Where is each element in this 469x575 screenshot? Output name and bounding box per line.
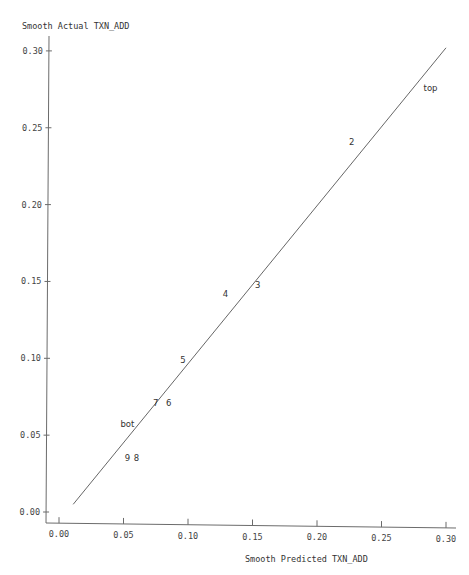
point-label-top: top [424, 83, 438, 93]
x-axis-line [46, 523, 456, 528]
y-tick-label: 0.25 [22, 123, 42, 133]
x-tick-label: 0.10 [178, 531, 198, 541]
y-tick-label: 0.00 [20, 507, 40, 517]
point-label-9: 9 [125, 453, 130, 463]
y-axis-line [46, 36, 49, 523]
x-tick-label: 0.05 [113, 530, 133, 540]
point-label-8: 8 [134, 453, 139, 463]
y-tick-label: 0.20 [21, 200, 41, 210]
point-label-2: 2 [349, 137, 354, 147]
y-tick-label: 0.30 [22, 46, 42, 56]
y-tick-label: 0.15 [21, 276, 41, 286]
scatter-chart: 0.000.050.100.150.200.250.300.000.050.10… [0, 0, 469, 575]
y-tick-label: 0.05 [20, 430, 40, 440]
point-label-6: 6 [166, 398, 171, 408]
axes: 0.000.050.100.150.200.250.300.000.050.10… [20, 36, 457, 544]
x-tick-label: 0.00 [49, 529, 69, 539]
x-tick-label: 0.15 [242, 532, 262, 542]
point-label-3: 3 [255, 280, 260, 290]
fit-line [73, 48, 446, 504]
point-label-4: 4 [223, 289, 228, 299]
y-tick-label: 0.10 [21, 353, 41, 363]
point-label-7: 7 [153, 398, 158, 408]
x-axis-title: Smooth Predicted TXN_ADD [245, 554, 368, 564]
x-tick-label: 0.30 [436, 534, 456, 544]
x-tick-label: 0.20 [307, 532, 327, 542]
point-label-bot: bot [120, 419, 135, 429]
point-label-5: 5 [180, 355, 185, 365]
y-axis-title: Smooth Actual TXN_ADD [22, 21, 129, 31]
reference-line [73, 48, 446, 504]
point-labels: top234567bot98 [120, 83, 437, 463]
x-tick-label: 0.25 [371, 533, 391, 543]
